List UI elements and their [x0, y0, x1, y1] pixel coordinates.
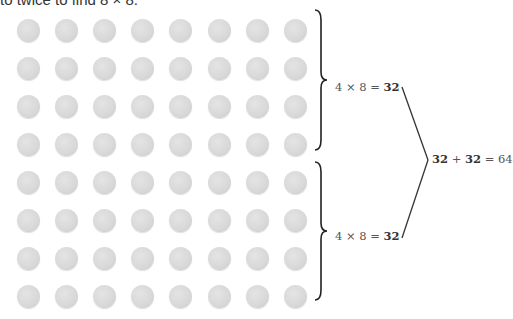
sum-plus: +	[448, 152, 465, 166]
sum-total: = 64	[481, 152, 513, 166]
brace-top-icon	[315, 10, 327, 150]
sum-addend-b: 32	[465, 152, 481, 166]
brace-bottom-icon	[315, 162, 327, 300]
top-group-equation: 4 × 8 = 32	[335, 80, 400, 94]
equation-expression: 4 × 8 =	[335, 80, 384, 94]
equation-expression: 4 × 8 =	[335, 229, 384, 243]
equation-result: 32	[384, 229, 400, 243]
equation-result: 32	[384, 80, 400, 94]
connector-line-top	[402, 87, 428, 160]
connector-line-bottom	[402, 160, 428, 238]
sum-addend-a: 32	[432, 152, 448, 166]
bottom-group-equation: 4 × 8 = 32	[335, 229, 400, 243]
sum-equation: 32 + 32 = 64	[432, 152, 513, 166]
